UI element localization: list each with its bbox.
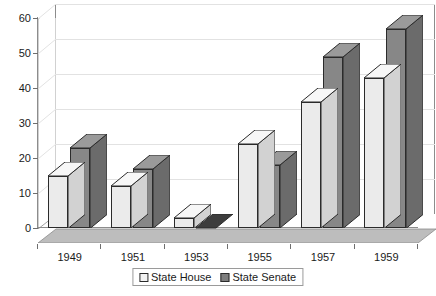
bar-state-house-1953[interactable] [174, 218, 194, 229]
x-axis-label: 1951 [121, 251, 145, 263]
bar-state-house-1949[interactable] [48, 176, 68, 229]
y-axis-label: 50 [19, 47, 31, 59]
bar-state-house-1957[interactable] [301, 102, 321, 228]
bar-top [133, 155, 170, 170]
x-axis-label: 1953 [184, 251, 208, 263]
gridline [55, 4, 435, 5]
bar-state-house-1951[interactable] [111, 186, 131, 228]
y-axis-label: 60 [19, 12, 31, 24]
bar-top [301, 88, 338, 103]
bar-state-house-1959[interactable] [364, 78, 384, 229]
bar-side [406, 15, 423, 229]
plot-area: 0102030405060 194919511953195519571959 [38, 18, 418, 228]
x-axis-label: 1959 [374, 251, 398, 263]
bar-side [343, 43, 360, 229]
chart-floor [38, 227, 436, 243]
gridline-connector [38, 4, 56, 19]
x-axis-tick [417, 244, 418, 249]
legend-label: State Senate [232, 271, 296, 283]
legend-swatch-icon [220, 273, 229, 282]
x-axis-label: 1955 [247, 251, 271, 263]
bar-top [364, 64, 401, 79]
legend-item-state-senate[interactable]: State Senate [220, 271, 296, 283]
x-axis-tick [354, 244, 355, 249]
gridline-connector [38, 144, 56, 159]
y-axis-tick [33, 88, 38, 89]
bar-face [111, 186, 131, 228]
legend-swatch-icon [139, 273, 148, 282]
bar-face [301, 102, 321, 228]
y-axis-tick [33, 158, 38, 159]
gridline [55, 39, 435, 40]
bar-side [321, 88, 338, 228]
bar-top [70, 134, 107, 149]
gridline-connector [38, 74, 56, 89]
y-axis-label: 0 [25, 222, 31, 234]
y-axis-label: 40 [19, 82, 31, 94]
x-axis-tick [100, 244, 101, 249]
y-axis-tick [33, 193, 38, 194]
bar-face [48, 176, 68, 229]
y-axis-label: 30 [19, 117, 31, 129]
x-axis-tick [227, 244, 228, 249]
x-axis-label: 1949 [57, 251, 81, 263]
bar-top [386, 15, 423, 30]
bar-top [48, 162, 85, 177]
bar-face [174, 218, 194, 229]
bar-top [174, 204, 211, 219]
y-axis-label: 20 [19, 152, 31, 164]
gridline-connector [38, 109, 56, 124]
y-axis-tick [33, 123, 38, 124]
bar-top [111, 172, 148, 187]
x-axis-label: 1957 [311, 251, 335, 263]
y-axis-tick [33, 228, 38, 229]
y-axis-tick [33, 18, 38, 19]
bar-top [323, 43, 360, 58]
y-axis-tick [33, 53, 38, 54]
y-axis-label: 10 [19, 187, 31, 199]
legend-item-state-house[interactable]: State House [139, 271, 212, 283]
x-axis-tick [164, 244, 165, 249]
bar-state-house-1955[interactable] [238, 144, 258, 228]
chart-legend[interactable]: State House State Senate [132, 268, 303, 286]
chart-title [0, 0, 435, 1]
legend-label: State House [151, 271, 212, 283]
bar-face [238, 144, 258, 228]
x-axis-tick [290, 244, 291, 249]
bar-side [384, 64, 401, 229]
x-axis-tick [37, 244, 38, 249]
bar-top [238, 130, 275, 145]
bar-face [364, 78, 384, 229]
gridline-connector [38, 39, 56, 54]
